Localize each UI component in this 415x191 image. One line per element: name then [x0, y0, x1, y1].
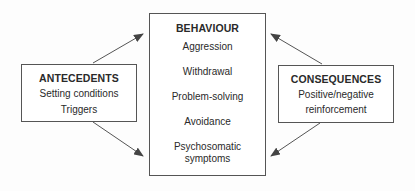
- antecedents-item: Setting conditions: [22, 86, 136, 102]
- antecedents-box: ANTECEDENTS Setting conditions Triggers: [21, 64, 137, 122]
- consequences-item: Positive/negative: [279, 87, 393, 102]
- antecedents-item: Triggers: [22, 102, 136, 118]
- behaviour-box: BEHAVIOUR Aggression Withdrawal Problem-…: [149, 13, 266, 176]
- behaviour-item: Withdrawal: [150, 66, 265, 78]
- arrow-antecedents-to-behaviour-top: [93, 34, 143, 63]
- behaviour-item: Avoidance: [150, 116, 265, 128]
- arrow-consequences-to-behaviour-top: [271, 34, 322, 64]
- antecedents-title: ANTECEDENTS: [22, 72, 136, 84]
- behaviour-item: Aggression: [150, 41, 265, 53]
- behaviour-title: BEHAVIOUR: [150, 22, 265, 34]
- arrow-consequences-to-behaviour-bottom: [271, 123, 320, 156]
- consequences-item: reinforcement: [279, 102, 393, 117]
- consequences-title: CONSEQUENCES: [279, 73, 393, 85]
- behaviour-item: Problem-solving: [150, 91, 265, 103]
- behaviour-item: Psychosomatic symptoms: [150, 141, 265, 165]
- abc-diagram: ANTECEDENTS Setting conditions Triggers …: [0, 0, 415, 191]
- consequences-box: CONSEQUENCES Positive/negative reinforce…: [278, 65, 394, 123]
- arrow-antecedents-to-behaviour-bottom: [93, 122, 143, 156]
